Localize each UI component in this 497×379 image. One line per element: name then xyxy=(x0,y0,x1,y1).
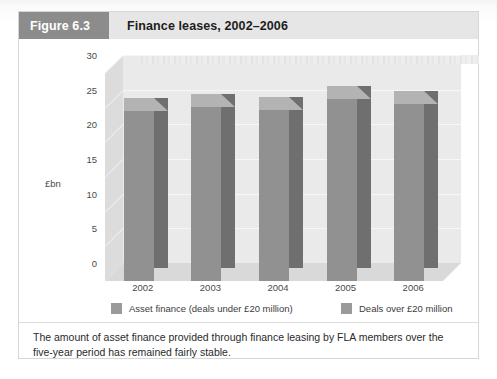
bar-front-face xyxy=(394,104,424,281)
bar-top-face xyxy=(327,86,371,99)
chart-area: £bn 051015202530 20022003200420052006 xyxy=(19,39,478,301)
legend-entry: Asset finance (deals under £20 million) xyxy=(111,303,293,314)
bar-side-face xyxy=(357,86,371,268)
y-axis-tick: 30 xyxy=(65,50,97,61)
legend-label: Deals over £20 million xyxy=(359,303,452,314)
chart-legend: Asset finance (deals under £20 million)D… xyxy=(19,299,478,323)
bar-front-face xyxy=(327,99,357,281)
bar-side-face xyxy=(424,91,438,268)
x-axis-tick: 2002 xyxy=(132,282,153,293)
x-axis-tick-labels: 20022003200420052006 xyxy=(105,282,461,298)
bar xyxy=(259,110,289,281)
figure-number-badge: Figure 6.3 xyxy=(19,12,109,39)
y-axis-tick: 25 xyxy=(65,84,97,95)
bar xyxy=(327,99,357,281)
y-axis-tick: 5 xyxy=(65,223,97,234)
bar-side-face xyxy=(221,94,235,268)
legend-label: Asset finance (deals under £20 million) xyxy=(129,303,293,314)
figure-header: Figure 6.3 Finance leases, 2002–2006 xyxy=(19,12,478,39)
bar xyxy=(394,104,424,281)
x-axis-tick: 2004 xyxy=(267,282,288,293)
bar-front-face xyxy=(259,110,289,281)
y-axis-tick: 20 xyxy=(65,119,97,130)
bar-top-face xyxy=(259,97,303,110)
y-axis-tick: 10 xyxy=(65,188,97,199)
plot-area xyxy=(105,55,461,281)
figure-container: Figure 6.3 Finance leases, 2002–2006 £bn… xyxy=(18,11,479,359)
legend-swatch xyxy=(341,303,352,314)
x-axis-tick: 2003 xyxy=(200,282,221,293)
scan-noise-band xyxy=(141,55,479,64)
scanned-page: Figure 6.3 Finance leases, 2002–2006 £bn… xyxy=(0,0,497,379)
gridline xyxy=(123,55,461,56)
caption-divider xyxy=(19,322,478,323)
bar-front-face xyxy=(124,111,154,281)
figure-title: Finance leases, 2002–2006 xyxy=(109,12,478,39)
y-axis-tick: 0 xyxy=(65,258,97,269)
y-axis-title: £bn xyxy=(45,178,61,189)
bar xyxy=(124,111,154,281)
bar-front-face xyxy=(191,107,221,281)
bar-top-face xyxy=(124,98,168,111)
figure-caption: The amount of asset finance provided thr… xyxy=(33,330,465,359)
y-axis-tick-labels: 051015202530 xyxy=(65,39,97,301)
bar-top-face xyxy=(394,91,438,104)
y-axis-tick: 15 xyxy=(65,154,97,165)
bar xyxy=(191,107,221,281)
x-axis-tick: 2005 xyxy=(335,282,356,293)
legend-entry: Deals over £20 million xyxy=(341,303,452,314)
legend-swatch xyxy=(111,303,122,314)
x-axis-tick: 2006 xyxy=(403,282,424,293)
bar-top-face xyxy=(191,94,235,107)
bar-side-face xyxy=(154,98,168,268)
bar-side-face xyxy=(289,97,303,268)
